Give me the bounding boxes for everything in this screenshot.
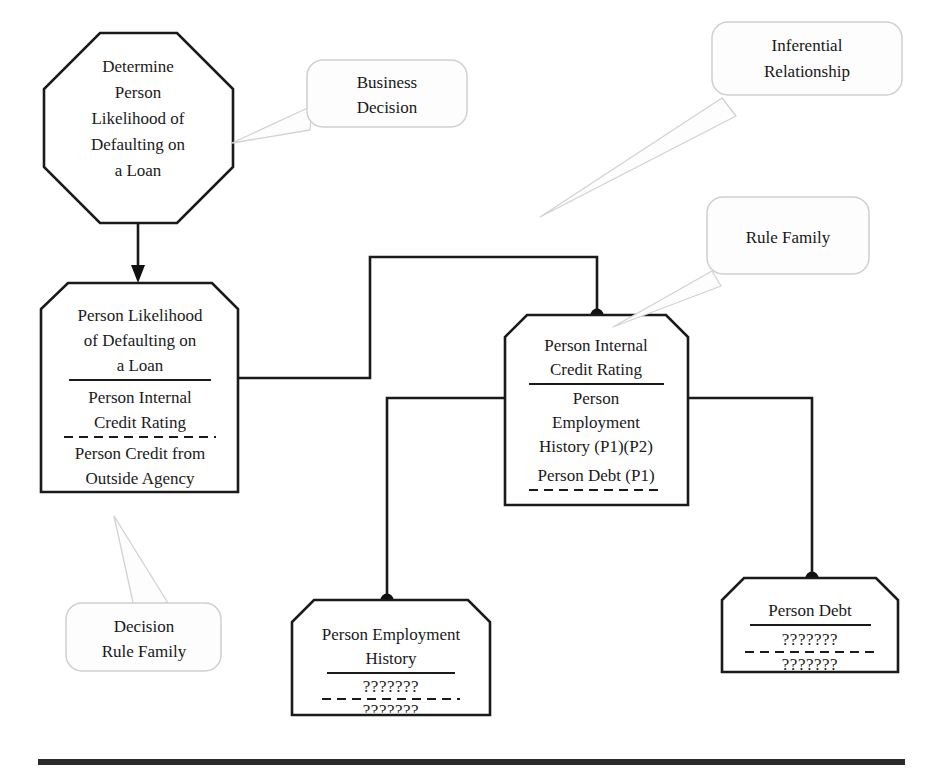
arrowhead-icon	[131, 265, 145, 283]
callout-business-decision-line-1: Business	[357, 73, 417, 92]
callout-inferential-relationship: Inferential Relationship	[540, 22, 902, 217]
node-person-likelihood-rule-family[interactable]: Person Likelihood of Defaulting on a Loa…	[41, 283, 238, 492]
callout-tail-inferential-relationship	[540, 98, 736, 217]
callout-tail-decision-rule-family	[114, 516, 168, 607]
octagon-line-4: Defaulting on	[91, 135, 185, 154]
callout-inferential-line-2: Relationship	[764, 62, 850, 81]
left-section2-line-1: Person Credit from	[75, 444, 205, 463]
connector-center-to-debt	[688, 398, 812, 578]
connector-center-to-employment	[387, 398, 505, 600]
left-section1-line-2: Credit Rating	[94, 413, 187, 432]
octagon-line-3: Likelihood of	[91, 109, 184, 128]
debt-header-line-1: Person Debt	[768, 601, 852, 620]
center-header-line-2: Credit Rating	[550, 360, 643, 379]
left-header-line-2: of Defaulting on	[84, 331, 197, 350]
node-person-internal-credit-rating[interactable]: Person Internal Credit Rating Person Emp…	[505, 315, 688, 505]
bottom-horizontal-rule	[38, 759, 905, 765]
debt-section2-value: ???????	[782, 655, 838, 674]
callout-decision-rule-family-line-1: Decision	[114, 617, 175, 636]
callout-rule-family: Rule Family	[613, 197, 869, 327]
callout-bubble-inferential-relationship	[712, 22, 902, 95]
callout-business-decision: Business Decision	[232, 60, 467, 143]
employment-header-line-1: Person Employment	[322, 625, 461, 644]
debt-section1-value: ???????	[782, 630, 838, 649]
octagon-line-5: a Loan	[115, 161, 162, 180]
callout-decision-rule-family: Decision Rule Family	[66, 516, 221, 671]
node-determine-person-likelihood[interactable]: Determine Person Likelihood of Defaultin…	[44, 33, 233, 223]
employment-section2-value: ???????	[363, 701, 419, 720]
callout-inferential-line-1: Inferential	[772, 36, 843, 55]
employment-header-line-2: History	[366, 649, 418, 668]
node-person-employment-history[interactable]: Person Employment History ??????? ??????…	[292, 600, 490, 720]
callout-tail-business-decision	[232, 106, 312, 143]
center-section1-line-3: History (P1)(P2)	[539, 437, 653, 456]
center-section2-line-1: Person Debt (P1)	[537, 466, 654, 485]
callout-rule-family-line-1: Rule Family	[746, 228, 831, 247]
octagon-line-1: Determine	[102, 57, 174, 76]
center-header-line-1: Person Internal	[544, 336, 648, 355]
octagon-line-2: Person	[115, 83, 162, 102]
left-header-line-1: Person Likelihood	[77, 306, 203, 325]
diagram-canvas: Determine Person Likelihood of Defaultin…	[0, 0, 930, 780]
node-person-debt[interactable]: Person Debt ??????? ???????	[722, 578, 898, 674]
center-section1-line-1: Person	[573, 389, 620, 408]
employment-section1-value: ???????	[363, 677, 419, 696]
left-section1-line-1: Person Internal	[88, 388, 192, 407]
callout-business-decision-line-2: Decision	[357, 98, 418, 117]
left-header-line-3: a Loan	[117, 356, 164, 375]
center-section1-line-2: Employment	[552, 413, 640, 432]
left-section2-line-2: Outside Agency	[85, 469, 195, 488]
callout-decision-rule-family-line-2: Rule Family	[102, 642, 187, 661]
